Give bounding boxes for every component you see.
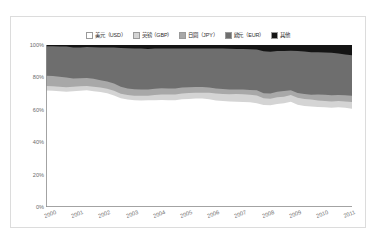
y-tick-label-0: 100%	[18, 42, 44, 48]
legend-swatch-eur	[225, 32, 232, 39]
legend-label-usd: 美元（USD）	[95, 32, 126, 39]
y-tick-label-4: 20%	[18, 172, 44, 178]
legend-item-other: 其他	[271, 32, 290, 39]
x-tick-label-4: 2004	[152, 209, 166, 219]
legend-item-jpy: 日圆（JPY）	[179, 32, 217, 39]
legend-swatch-other	[271, 32, 278, 39]
x-tick-label-10: 2010	[315, 209, 329, 219]
y-axis: 100%80%60%40%20%0%	[14, 45, 44, 207]
legend-label-jpy: 日圆（JPY）	[188, 32, 217, 39]
chart-figure: 美元（USD） 英镑（GBP） 日圆（JPY） 欧元（EUR） 其他 100%8…	[0, 0, 378, 244]
legend-item-eur: 欧元（EUR）	[225, 32, 265, 39]
x-tick-label-7: 2007	[234, 209, 248, 219]
x-tick-label-3: 2003	[125, 209, 139, 219]
legend-label-eur: 欧元（EUR）	[234, 32, 265, 39]
y-tick-label-1: 80%	[18, 74, 44, 80]
x-tick-label-1: 2001	[70, 209, 84, 219]
legend-item-usd: 美元（USD）	[86, 32, 126, 39]
x-axis: 2000200120022003200420052006200720082009…	[46, 209, 352, 231]
y-tick-label-2: 60%	[18, 107, 44, 113]
x-tick-label-6: 2006	[206, 209, 220, 219]
legend-swatch-jpy	[179, 32, 186, 39]
legend-swatch-usd	[86, 32, 93, 39]
legend-label-gbp: 英镑（GBP）	[142, 32, 173, 39]
stacked-area-svg	[46, 45, 352, 207]
legend-swatch-gbp	[133, 32, 140, 39]
x-tick-label-2: 2002	[98, 209, 112, 219]
y-tick-label-3: 40%	[18, 139, 44, 145]
legend-item-gbp: 英镑（GBP）	[133, 32, 173, 39]
area-band-0	[46, 90, 352, 207]
plot-area	[46, 45, 352, 207]
x-tick-label-0: 2000	[43, 209, 57, 219]
chart-legend: 美元（USD） 英镑（GBP） 日圆（JPY） 欧元（EUR） 其他	[10, 29, 366, 42]
legend-label-other: 其他	[280, 32, 290, 39]
y-tick-label-5: 0%	[18, 204, 44, 210]
x-tick-label-5: 2005	[179, 209, 193, 219]
x-tick-label-9: 2009	[288, 209, 302, 219]
x-tick-label-8: 2008	[261, 209, 275, 219]
